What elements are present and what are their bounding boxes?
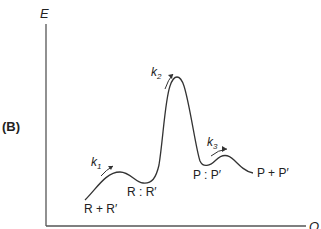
intermediate-2-label: P : P′ [193, 168, 222, 182]
intermediate-1-label: R : R′ [127, 185, 157, 199]
y-axis-label: E [40, 6, 49, 21]
k3-label: k3 [207, 135, 218, 151]
reactants-label: R + R′ [84, 202, 118, 216]
x-axis-label: Q [309, 219, 319, 229]
energy-curve [85, 77, 253, 200]
k1-arrowhead-icon [108, 166, 113, 170]
k1-label: k1 [91, 155, 101, 171]
panel-label: (B) [2, 119, 20, 134]
products-label: P + P′ [257, 166, 289, 180]
energy-diagram: E Q (B) k1 k2 k3 R + R′ R : R′ P : P′ P … [0, 0, 321, 229]
k3-arrowhead-icon [222, 146, 227, 152]
k2-label: k2 [151, 65, 162, 81]
